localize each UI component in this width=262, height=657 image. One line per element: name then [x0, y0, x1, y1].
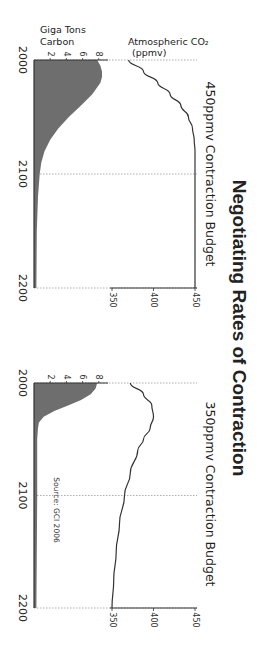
source-annotation: Source: GCI 2006 [52, 477, 61, 543]
year-label-2100: 2100 [16, 160, 29, 188]
panel-title-350: 350ppmv Contraction Budget [203, 401, 218, 586]
emissions-tick-label: 4 [62, 51, 71, 56]
emissions-tick-label: 2 [46, 374, 55, 379]
chart-panel-450: 450ppmv Contraction Budget Giga Tons Car… [16, 24, 218, 308]
co2-tick-label: 350 [108, 292, 117, 307]
emissions-axis-label-line2: Carbon [40, 36, 74, 47]
emissions-tick-label: 6 [78, 51, 87, 56]
co2-tick-label: 400 [149, 612, 158, 627]
emissions-axis-label-line1: Giga Tons [40, 24, 86, 35]
plot-area-450: 2468350400450200021002200 [16, 46, 200, 308]
year-label-2000: 2000 [16, 369, 29, 397]
chart-figure: Negotiating Rates of Contraction 450ppmv… [0, 0, 262, 657]
panel-title-450: 450ppmv Contraction Budget [203, 81, 218, 266]
co2-axis-label-line2: (ppmv) [132, 47, 166, 58]
co2-tick-label: 400 [149, 292, 158, 307]
emissions-tick-label: 2 [46, 51, 55, 56]
year-label-2200: 2200 [16, 274, 29, 302]
emissions-tick-label: 6 [78, 374, 87, 379]
co2-tick-label: 450 [191, 292, 200, 307]
plot-area-350: 2468350400450200021002200 [16, 369, 200, 628]
emissions-tick-label: 4 [62, 374, 71, 379]
emissions-tick-label: 8 [94, 51, 103, 56]
year-label-2100: 2100 [16, 482, 29, 510]
co2-axis-label-line1: Atmospheric CO₂ [128, 36, 209, 47]
emissions-tick-label: 8 [94, 374, 103, 379]
figure-title: Negotiating Rates of Contraction [229, 180, 250, 477]
co2-tick-label: 450 [191, 612, 200, 627]
chart-panel-350: 350ppmv Contraction Budget Source: GCI 2… [16, 369, 218, 628]
year-label-2200: 2200 [16, 594, 29, 622]
year-label-2000: 2000 [16, 46, 29, 74]
co2-tick-label: 350 [108, 612, 117, 627]
